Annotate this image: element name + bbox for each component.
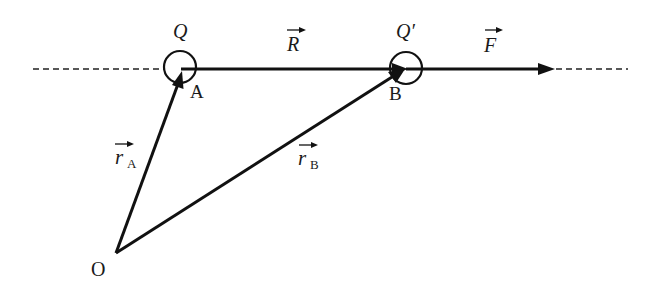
label-R: R xyxy=(286,27,306,55)
label-F: F xyxy=(483,27,503,56)
vector-rA-arrowhead xyxy=(172,71,184,89)
label-O: O xyxy=(91,258,105,280)
svg-text:B: B xyxy=(310,157,319,172)
label-Q: Q xyxy=(173,20,188,42)
svg-text:r: r xyxy=(298,146,307,170)
svg-text:A: A xyxy=(127,156,137,171)
label-Qprime: Q′ xyxy=(396,20,415,42)
svg-text:F: F xyxy=(483,34,497,56)
vector-F-arrowhead xyxy=(538,63,555,75)
label-rA: r A xyxy=(115,141,137,171)
label-rB: r B xyxy=(298,142,319,172)
vector-rB-line xyxy=(116,77,392,253)
svg-text:R: R xyxy=(286,33,299,55)
label-A: A xyxy=(190,81,204,102)
label-B: B xyxy=(389,83,402,104)
vector-rA-line xyxy=(116,84,178,253)
svg-text:r: r xyxy=(115,145,124,169)
vector-diagram: Q Q′ A B O R F r A r B xyxy=(0,0,651,290)
